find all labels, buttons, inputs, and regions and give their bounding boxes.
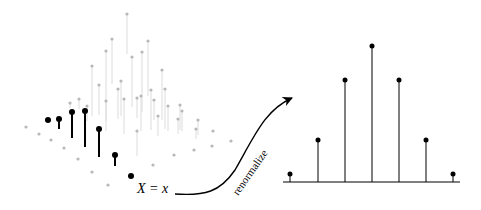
grey-point	[166, 104, 169, 107]
grey-point	[90, 64, 93, 67]
slice-point	[128, 173, 134, 179]
grey-point	[178, 103, 181, 106]
stem-point	[397, 78, 402, 83]
grey-point	[135, 96, 138, 99]
grey-point	[152, 98, 155, 101]
grey-point	[196, 118, 199, 121]
grey-point	[90, 170, 93, 173]
grey-point	[85, 104, 88, 107]
grey-point	[122, 97, 125, 100]
grey-point	[104, 99, 107, 102]
grey-point	[229, 139, 232, 142]
grey-point	[116, 87, 119, 90]
stem-point	[451, 172, 456, 177]
grey-point	[151, 163, 154, 166]
joint-distribution-points	[24, 12, 232, 186]
grey-point	[180, 109, 183, 112]
grey-point	[140, 50, 143, 53]
slice-point	[56, 116, 62, 122]
grey-point	[172, 153, 175, 156]
stem-point	[343, 78, 348, 83]
renormalized-stem-plot	[283, 44, 460, 183]
grey-point	[160, 68, 163, 71]
grey-point	[135, 129, 138, 132]
slice-point	[112, 152, 118, 158]
stem-point	[288, 172, 293, 177]
grey-point	[146, 39, 149, 42]
grey-point	[77, 97, 80, 100]
grey-point	[68, 101, 71, 104]
grey-point	[192, 148, 195, 151]
slice-point	[82, 108, 88, 114]
grey-point	[97, 83, 100, 86]
conditional-slice-stems	[45, 108, 134, 179]
grey-point	[76, 157, 79, 160]
stem-point	[370, 44, 375, 49]
grey-point	[149, 88, 152, 91]
grey-point	[125, 12, 128, 15]
stem-point	[424, 138, 429, 143]
condition-label: X = x	[136, 181, 169, 196]
grey-point	[163, 87, 166, 90]
grey-point	[110, 37, 113, 40]
grey-point	[194, 127, 197, 130]
slice-point	[69, 109, 75, 115]
grey-point	[104, 49, 107, 52]
grey-point	[210, 144, 213, 147]
grey-point	[37, 132, 40, 135]
slice-point	[96, 126, 102, 132]
grey-point	[139, 94, 142, 97]
grey-point	[49, 138, 52, 141]
grey-point	[119, 79, 122, 82]
grey-point	[211, 129, 214, 132]
grey-point	[106, 183, 109, 186]
grey-point	[24, 125, 27, 128]
diagram-canvas: X = x renormalize	[0, 0, 481, 210]
grey-point	[62, 146, 65, 149]
grey-point	[156, 114, 159, 117]
grey-point	[176, 117, 179, 120]
renormalize-label: renormalize	[230, 147, 270, 197]
slice-point	[45, 117, 51, 123]
stem-point	[316, 138, 321, 143]
renormalize-arrow	[175, 98, 292, 194]
grey-point	[130, 55, 133, 58]
